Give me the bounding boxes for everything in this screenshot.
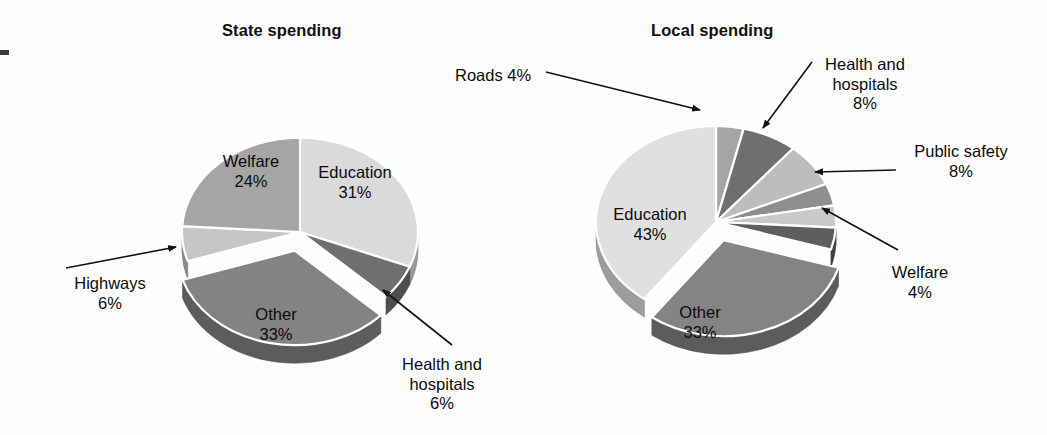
slice-label-local-roads: Roads 4%	[455, 66, 561, 86]
slice-label-state-education: Education31%	[302, 163, 408, 202]
slice-label-state-highways: Highways6%	[60, 274, 160, 313]
slice-label-state-welfare: Welfare24%	[203, 152, 299, 191]
leader-state-health	[383, 290, 452, 345]
pie-slice-education[interactable]	[300, 138, 418, 267]
chart-title-local-spending: Local spending	[651, 21, 773, 40]
slice-label-local-other: Other33%	[664, 303, 736, 342]
slice-label-state-health-and-hospitals: Health andhospitals6%	[386, 355, 498, 414]
slice-label-local-health-and-hospitals: Health andhospitals8%	[806, 55, 924, 114]
slice-label-local-education: Education43%	[596, 205, 704, 244]
leader-local-roads	[546, 72, 700, 110]
chart-title-state-spending: State spending	[222, 21, 342, 40]
leader-local-publicsafety	[815, 170, 896, 172]
leader-local-health	[763, 62, 812, 128]
figure-canvas: State spending Local spending Welfare24%…	[0, 0, 1047, 435]
slice-label-state-other: Other33%	[240, 305, 312, 344]
leader-state-highways	[66, 247, 176, 268]
slice-label-local-welfare: Welfare4%	[876, 263, 964, 302]
slice-label-local-public-safety: Public safety8%	[899, 142, 1023, 181]
